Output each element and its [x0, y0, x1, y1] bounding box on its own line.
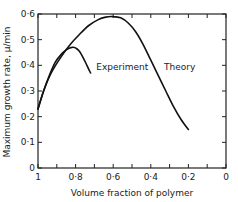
y-tick-label: 0·2 — [21, 112, 35, 122]
x-tick-label: 0·4 — [144, 172, 159, 182]
annotation-theory: Theory — [163, 62, 196, 72]
y-axis-ticks: 00·10·20·30·40·50·6 — [21, 9, 226, 173]
x-tick-label: 0·2 — [181, 172, 195, 182]
x-axis-label: Volume fraction of polymer — [71, 188, 194, 198]
series-line-theory — [38, 17, 188, 130]
y-tick-label: 0·1 — [21, 137, 35, 147]
y-tick-label: 0·3 — [21, 86, 35, 96]
annotations: ExperimentTheory — [96, 62, 196, 72]
series-line-experiment — [38, 47, 91, 109]
y-tick-label: 0·5 — [21, 35, 35, 45]
annotation-experiment: Experiment — [96, 62, 148, 72]
y-tick-label: 0 — [29, 163, 35, 173]
x-tick-label: 0 — [223, 172, 229, 182]
y-tick-label: 0·6 — [21, 9, 36, 19]
x-axis-ticks: 10·80·60·40·20 — [35, 14, 229, 182]
y-axis-label: Maximum growth rate, μ/min — [2, 26, 12, 157]
series-group — [38, 17, 188, 130]
growth-rate-chart: 10·80·60·40·20 00·10·20·30·40·50·6 Exper… — [0, 0, 238, 202]
x-tick-label: 0·8 — [68, 172, 83, 182]
y-tick-label: 0·4 — [21, 60, 36, 70]
axes — [38, 14, 226, 168]
x-tick-label: 1 — [35, 172, 41, 182]
plot-frame — [38, 14, 226, 168]
x-tick-label: 0·6 — [106, 172, 121, 182]
